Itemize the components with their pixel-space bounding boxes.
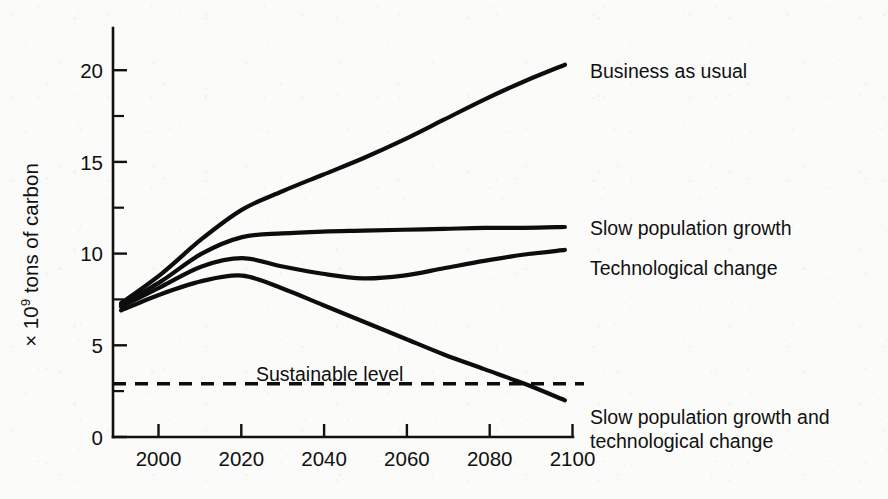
- series-label-slow-population-growth: Slow population growth: [590, 217, 792, 239]
- x-axis-tick-labels: 2000 2020 2040 2060 2080 2100: [136, 447, 596, 470]
- chart-svg: × 109 tons of carbon 20 15 10: [0, 0, 888, 499]
- carbon-emissions-chart: × 109 tons of carbon 20 15 10: [0, 0, 888, 499]
- y-axis-label-prefix: × 10: [19, 306, 42, 346]
- series-label-slow-population-and-technological-change-line1: Slow population growth and: [590, 406, 830, 428]
- x-tick-label-2000: 2000: [136, 447, 182, 470]
- x-tick-label-2020: 2020: [218, 447, 264, 470]
- y-tick-label-0: 0: [92, 426, 103, 449]
- y-axis-label-exponent: 9: [18, 299, 33, 307]
- y-tick-label-20: 20: [80, 59, 103, 82]
- y-axis-label-suffix: tons of carbon: [19, 163, 42, 299]
- series-line-technological-change: [121, 250, 565, 307]
- x-tick-label-2100: 2100: [550, 447, 596, 470]
- x-tick-label-2060: 2060: [384, 447, 430, 470]
- sustainable-level-label: Sustainable level: [256, 363, 403, 385]
- y-axis-tick-labels: 20 15 10 5 0: [80, 59, 103, 449]
- series-label-slow-population-and-technological-change-line2: technological change: [590, 430, 773, 452]
- y-tick-label-5: 5: [92, 334, 103, 357]
- y-tick-label-10: 10: [80, 242, 103, 265]
- y-axis-label: × 109 tons of carbon: [18, 163, 42, 347]
- y-tick-label-15: 15: [80, 151, 103, 174]
- svg-text:× 109 tons of carbon: × 109 tons of carbon: [18, 163, 42, 347]
- x-tick-label-2080: 2080: [467, 447, 513, 470]
- x-tick-label-2040: 2040: [301, 447, 347, 470]
- y-axis-major-ticks: [113, 70, 127, 437]
- series-line-business-as-usual: [121, 65, 565, 303]
- series-line-slow-population-growth: [121, 227, 565, 305]
- x-axis-ticks: [159, 424, 573, 437]
- series-label-business-as-usual: Business as usual: [590, 60, 747, 82]
- series-label-technological-change: Technological change: [590, 257, 778, 279]
